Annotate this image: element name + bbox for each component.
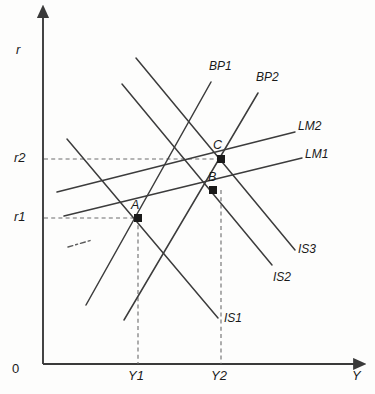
point-label-a: A — [131, 199, 139, 212]
y-tick-r1: r1 — [14, 210, 26, 223]
x-axis-label: Y — [352, 369, 361, 382]
curve-label-is2: IS2 — [273, 271, 291, 283]
curve-is3 — [136, 58, 295, 250]
curve-stub-faint — [68, 240, 92, 247]
curve-label-lm1: LM1 — [305, 148, 328, 160]
curve-lm2 — [57, 132, 295, 192]
y-axis-label: r — [16, 43, 20, 56]
curve-label-is3: IS3 — [298, 243, 316, 255]
origin-label: 0 — [12, 362, 19, 375]
point-b-marker — [209, 186, 217, 194]
curve-label-bp2: BP2 — [256, 71, 279, 83]
curve-label-bp1: BP1 — [209, 60, 232, 72]
curve-label-lm2: LM2 — [298, 120, 321, 132]
diagram-canvas — [0, 0, 375, 394]
curve-label-is1: IS1 — [224, 312, 242, 324]
curve-is2 — [122, 84, 272, 265]
y-tick-r2: r2 — [14, 151, 26, 164]
is-lm-bp-diagram: r Y 0 r2 r1 Y1 Y2 BP1 BP2 LM2 LM1 IS3 IS… — [0, 0, 375, 394]
point-label-c: C — [213, 139, 222, 152]
x-tick-y2: Y2 — [211, 369, 227, 382]
point-a-marker — [134, 214, 142, 222]
point-c-marker — [217, 155, 225, 163]
curve-is1 — [67, 139, 218, 318]
curve-lm1 — [64, 158, 302, 216]
point-label-b: B — [208, 171, 216, 184]
x-tick-y1: Y1 — [128, 369, 144, 382]
